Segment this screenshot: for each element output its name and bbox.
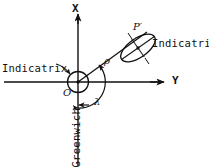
greenwich-label: Greenwich [71, 108, 82, 167]
indicatrix-left-label: Indicatrix [2, 63, 67, 74]
radius-line-rho [78, 32, 147, 82]
origin-center-dot [76, 80, 79, 83]
y-axis-label: Y [172, 75, 179, 86]
lambda-label: λ [94, 97, 100, 107]
rho-label: ρ [104, 56, 110, 66]
ellipse-tick-lower [145, 58, 149, 64]
indicatrix-right-label: Indicatrix [152, 38, 209, 49]
ellipse-tick-upper [128, 33, 132, 39]
indicatrix-diagram: X Y O P′ ρ λ Indicatrix Indicatrix Green… [0, 0, 209, 167]
x-axis-label: X [72, 3, 79, 14]
point-p-prime-label: P′ [133, 22, 142, 32]
origin-label: O [63, 88, 71, 98]
